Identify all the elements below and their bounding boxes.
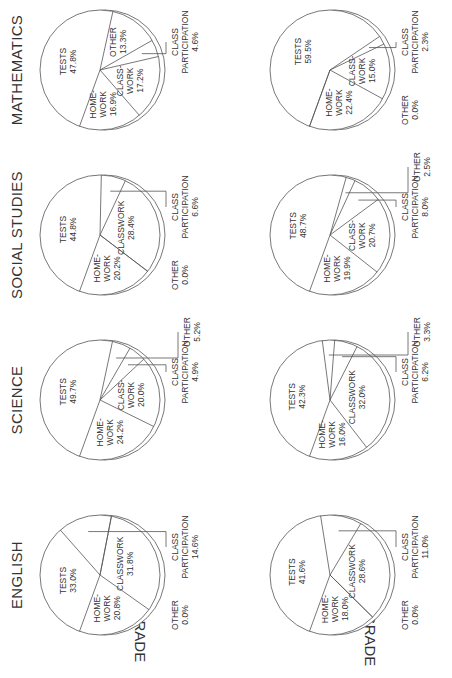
pie-7th-grade-science: TESTS49.7%CLASS-WORK20.0%HOME-WORK24.2%O… [40, 317, 202, 460]
subject-title-english: ENGLISH [8, 541, 25, 609]
slice-label-homework: HOME-WORK16.0% [317, 420, 347, 449]
slice-label-other: OTHER0.0% [170, 600, 190, 630]
pie-7th-grade-english: TESTS33.0%CLASSWORK31.8%HOME-WORK20.8%CL… [40, 515, 200, 635]
pie-chart-grid: ENGLISHSCIENCESOCIAL STUDIESMATHEMATICS … [0, 0, 452, 678]
slice-label-tests: TESTS33.0% [58, 567, 78, 595]
slice-label-class-participation: CLASSPARTICIPATION6.2% [400, 340, 430, 403]
subject-title-science: SCIENCE [8, 366, 25, 435]
subject-title-social-studies: SOCIAL STUDIES [8, 171, 25, 299]
slice-label-tests: TESTS49.7% [58, 378, 78, 406]
subject-titles: ENGLISHSCIENCESOCIAL STUDIESMATHEMATICS [8, 15, 25, 609]
slice-label-homework: HOME-WORK22.4% [324, 88, 354, 117]
slice-label-tests: TESTS59.5% [293, 38, 313, 66]
slice-label-classwork: CLASS-WORK20.0% [116, 379, 146, 410]
pies: TESTS33.0%CLASSWORK31.8%HOME-WORK20.8%CL… [40, 10, 432, 635]
pie-10th-grade-mathematics: TESTS59.5%CLASS-WORK15.0%HOME-WORK22.4%C… [270, 10, 430, 130]
slice-label-homework: HOME-WORK24.2% [95, 418, 125, 447]
slice-label-homework: HOME-WORK16.9% [88, 90, 118, 119]
slice-label-classwork: CLASS-WORK17.2% [115, 65, 145, 96]
slice-label-tests: TESTS44.8% [58, 215, 78, 243]
slice-label-homework: HOME-WORK18.0% [320, 595, 350, 624]
chart-canvas: ENGLISHSCIENCESOCIAL STUDIESMATHEMATICS … [0, 0, 452, 678]
slice-label-class-participation: CLASSPARTICIPATION4.6% [170, 10, 200, 73]
slice-label-other: OTHER0.0% [170, 260, 190, 290]
slice-label-homework: HOME-WORK20.2% [92, 254, 122, 283]
pie-10th-grade-english: TESTS41.6%CLASSWORK28.6%HOME-WORK18.0%CL… [270, 515, 430, 635]
slice-label-tests: TESTS48.7% [288, 212, 308, 240]
slice-label-other: OTHER0.0% [400, 95, 420, 125]
slice-label-tests: TESTS41.6% [287, 558, 307, 586]
slice-label-other: OTHER13.3% [108, 27, 128, 57]
slice-label-class-participation: CLASSPARTICIPATION2.3% [400, 10, 430, 73]
slice-label-classwork: CLASS-WORK20.7% [347, 220, 377, 251]
slice-label-tests: TESTS42.3% [287, 383, 307, 411]
slice-label-other: OTHER0.0% [400, 600, 420, 630]
slice-label-homework: HOME-WORK19.9% [322, 254, 352, 283]
pie-7th-grade-mathematics: TESTS47.8%OTHER13.3%CLASS-WORK17.2%HOME-… [40, 10, 200, 130]
slice-label-class-participation: CLASSPARTICIPATION6.6% [170, 175, 200, 238]
pie-10th-grade-social-studies: TESTS48.7%CLASS-WORK20.7%HOME-WORK19.9%O… [270, 152, 432, 295]
slice-label-tests: TESTS47.8% [58, 48, 78, 76]
pie-7th-grade-social-studies: TESTS44.8%CLASSWORK28.4%HOME-WORK20.2%CL… [40, 175, 200, 295]
pie-10th-grade-science: TESTS42.3%CLASSWORK32.0%HOME-WORK16.0%OT… [270, 317, 432, 460]
slice-label-class-participation: CLASSPARTICIPATION14.6% [170, 515, 200, 578]
slice-label-class-participation: CLASSPARTICIPATION11.0% [400, 515, 430, 578]
subject-title-mathematics: MATHEMATICS [8, 15, 25, 125]
slice-label-class-participation: CLASSPARTICIPATION4.9% [170, 340, 200, 403]
slice-label-class-participation: CLASSPARTICIPATION8.0% [400, 175, 430, 238]
slice-label-homework: HOME-WORK20.8% [92, 594, 122, 623]
